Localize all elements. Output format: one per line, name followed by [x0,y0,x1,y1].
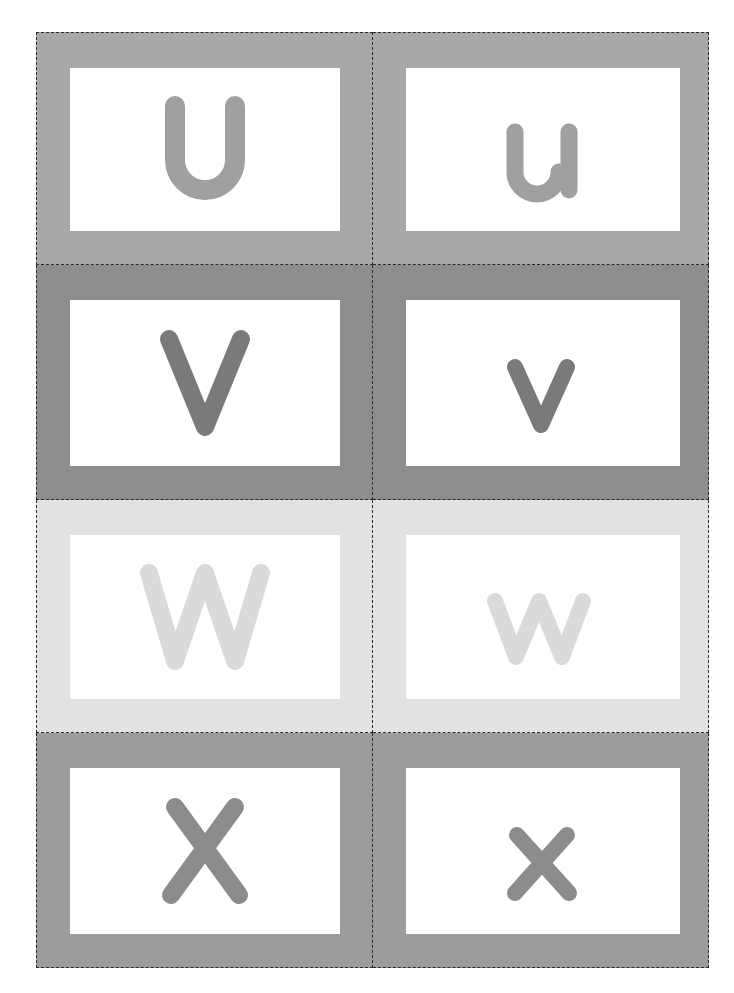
flashcard-v-lower: v [373,265,709,500]
flashcard-W-upper: W [36,500,373,733]
card-face: w [406,535,680,699]
card-face: X [70,768,340,934]
letter-v-glyph [503,323,583,443]
letter-w-glyph [483,557,603,677]
letter-W-glyph [135,557,275,677]
flashcard-sheet: U u V v [36,32,709,968]
flashcard-V-upper: V [36,265,373,500]
card-face: U [70,68,340,231]
card-face: x [406,768,680,934]
flashcard-u-lower: u [373,32,709,265]
flashcard-x-lower: x [373,733,709,968]
letter-V-glyph [155,323,255,443]
letter-x-glyph [503,791,583,911]
letter-X-glyph [155,791,255,911]
letter-u-glyph [503,90,583,210]
card-face: V [70,300,340,466]
letter-U-glyph [155,90,255,210]
flashcard-X-upper: X [36,733,373,968]
card-face: W [70,535,340,699]
flashcard-U-upper: U [36,32,373,265]
flashcard-w-lower: w [373,500,709,733]
card-face: u [406,68,680,231]
card-face: v [406,300,680,466]
